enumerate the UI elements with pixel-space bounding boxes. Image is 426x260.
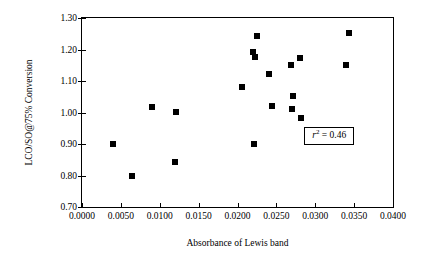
x-axis-tick-label: 0.0400 (380, 211, 406, 222)
x-axis-tick (121, 203, 122, 207)
data-point (288, 62, 294, 68)
x-axis-tick (354, 203, 355, 207)
x-axis-tick-label: 0.0150 (186, 211, 212, 222)
x-axis-tick (160, 203, 161, 207)
y-axis-tick-inner (82, 81, 86, 82)
y-axis-tick-label: 0.90 (60, 139, 77, 149)
y-axis-tick-label: 1.30 (60, 13, 77, 23)
data-point (289, 106, 295, 112)
r-squared-value: = 0.46 (319, 130, 346, 140)
data-point (252, 54, 258, 60)
r-squared-annotation: r2 = 0.46 (304, 127, 354, 145)
x-axis-title: Absorbance of Lewis band (81, 237, 394, 249)
data-point (343, 62, 349, 68)
y-axis-tick-inner (82, 113, 86, 114)
x-axis-tick (199, 203, 200, 207)
x-axis-tick-label: 0.0200 (224, 211, 250, 222)
y-axis-tick-label: 1.20 (60, 45, 77, 55)
data-point (239, 84, 245, 90)
y-axis-tick-inner (82, 18, 86, 19)
data-point (110, 141, 116, 147)
data-point (346, 30, 352, 36)
data-point (269, 103, 275, 109)
plot-area: 0.700.800.901.001.101.201.300.00000.0050… (81, 17, 394, 208)
x-axis-tick-label: 0.0350 (341, 211, 367, 222)
y-axis-tick-inner (82, 207, 86, 208)
data-point (298, 115, 304, 121)
y-axis-tick-label: 0.80 (60, 171, 77, 181)
data-point (172, 159, 178, 165)
x-axis-tick-label: 0.0000 (69, 211, 95, 222)
data-point (251, 141, 257, 147)
x-axis-tick (238, 203, 239, 207)
data-point (290, 93, 296, 99)
x-axis-tick-label: 0.0250 (263, 211, 289, 222)
y-axis-tick-inner (82, 144, 86, 145)
data-point (297, 55, 303, 61)
y-axis-title: LCO/SO@75% Conversion (22, 17, 36, 208)
y-axis-tick-inner (82, 176, 86, 177)
data-point (173, 109, 179, 115)
x-axis-tick (82, 203, 83, 207)
data-point (129, 173, 135, 179)
x-axis-tick-label: 0.0100 (147, 211, 173, 222)
x-axis-tick (393, 203, 394, 207)
scatter-chart-figure: LCO/SO@75% Conversion 0.700.800.901.001.… (0, 0, 426, 260)
x-axis-tick (276, 203, 277, 207)
x-axis-tick-label: 0.0050 (108, 211, 134, 222)
x-axis-tick-label: 0.0300 (302, 211, 328, 222)
data-point (266, 71, 272, 77)
data-point (254, 33, 260, 39)
y-axis-tick-label: 1.00 (60, 108, 77, 118)
y-axis-tick-label: 1.10 (60, 76, 77, 86)
y-axis-tick-inner (82, 50, 86, 51)
data-point (149, 104, 155, 110)
x-axis-tick (315, 203, 316, 207)
